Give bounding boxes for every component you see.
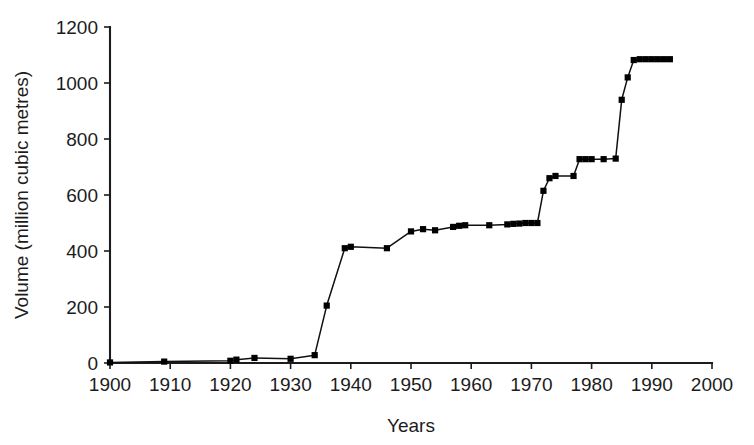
data-point-marker (312, 352, 318, 358)
data-point-marker (486, 222, 492, 228)
data-point-marker (661, 56, 667, 62)
data-point-marker (601, 156, 607, 162)
y-tick-label: 1200 (56, 17, 98, 38)
data-point-marker (510, 221, 516, 227)
data-point-marker (450, 224, 456, 230)
x-tick-label: 1900 (89, 374, 131, 395)
data-point-marker (528, 220, 534, 226)
data-point-marker (649, 56, 655, 62)
y-tick-label: 0 (87, 353, 98, 374)
data-point-marker (233, 357, 239, 363)
y-tick-label: 600 (66, 185, 98, 206)
y-tick-label: 800 (66, 129, 98, 150)
data-point-marker (546, 175, 552, 181)
data-point-marker (625, 74, 631, 80)
data-point-marker (589, 156, 595, 162)
data-point-marker (582, 156, 588, 162)
data-point-marker (348, 244, 354, 250)
data-point-marker (637, 56, 643, 62)
data-point-marker (643, 56, 649, 62)
data-point-marker (384, 245, 390, 251)
data-point-marker (522, 220, 528, 226)
data-series-markers (107, 56, 673, 365)
data-point-marker (420, 226, 426, 232)
x-tick-label: 1930 (269, 374, 311, 395)
data-series-line (110, 59, 670, 362)
chart-figure: 020040060080010001200 190019101920193019… (0, 0, 754, 445)
x-tick-label: 1990 (631, 374, 673, 395)
data-point-marker (504, 221, 510, 227)
y-axis-title: Volume (million cubic metres) (11, 71, 32, 319)
x-tick-label: 2000 (691, 374, 733, 395)
axis-group (110, 27, 712, 363)
line-chart: 020040060080010001200 190019101920193019… (0, 0, 754, 445)
x-axis-tick-labels: 1900191019201930194019501960197019801990… (89, 374, 733, 395)
data-point-marker (534, 220, 540, 226)
data-point-marker (288, 356, 294, 362)
data-point-marker (576, 156, 582, 162)
y-tick-label: 200 (66, 297, 98, 318)
y-tick-label: 400 (66, 241, 98, 262)
data-point-marker (408, 228, 414, 234)
x-tick-label: 1950 (390, 374, 432, 395)
x-tick-label: 1970 (510, 374, 552, 395)
data-point-marker (227, 358, 233, 364)
data-point-marker (655, 56, 661, 62)
data-point-marker (570, 173, 576, 179)
x-tick-label: 1910 (149, 374, 191, 395)
x-tick-label: 1940 (330, 374, 372, 395)
x-tick-label: 1960 (450, 374, 492, 395)
y-axis-tick-labels: 020040060080010001200 (56, 17, 98, 374)
data-point-marker (432, 227, 438, 233)
x-tick-label: 1980 (570, 374, 612, 395)
data-point-marker (462, 222, 468, 228)
data-point-marker (342, 245, 348, 251)
data-point-marker (667, 56, 673, 62)
data-point-marker (613, 156, 619, 162)
data-point-marker (619, 97, 625, 103)
data-point-marker (251, 355, 257, 361)
data-point-marker (324, 303, 330, 309)
data-point-marker (456, 223, 462, 229)
data-point-marker (540, 188, 546, 194)
x-axis-title: Years (387, 415, 435, 436)
data-point-marker (107, 359, 113, 365)
y-tick-label: 1000 (56, 73, 98, 94)
data-point-marker (631, 57, 637, 63)
x-tick-label: 1920 (209, 374, 251, 395)
data-point-marker (161, 359, 167, 365)
data-point-marker (552, 173, 558, 179)
data-point-marker (516, 220, 522, 226)
